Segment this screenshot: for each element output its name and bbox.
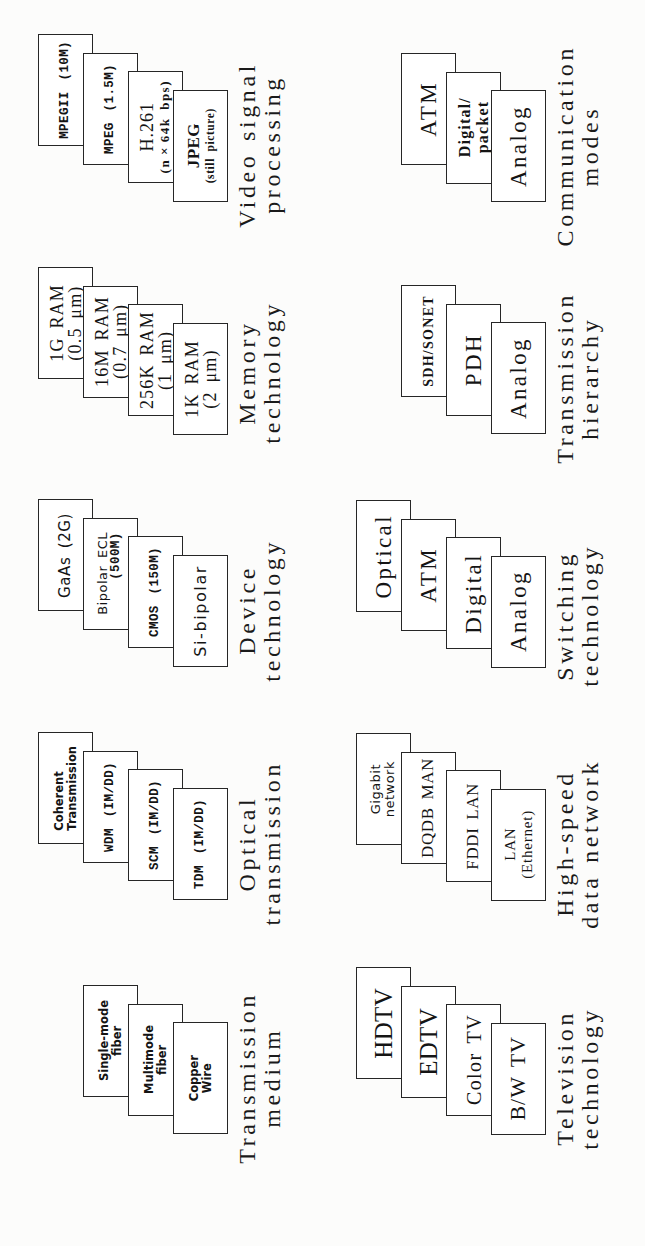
group-title: Transmissionhierarchy [547,267,609,489]
label-line: 16M RAM [93,296,111,387]
title-line: Device [235,539,260,682]
box-label: Gigabitnetwork [369,761,398,817]
title-line: hierarchy [578,292,603,464]
box-label: 1K RAM(2 μm) [183,340,219,418]
title-line: Switching [553,544,578,687]
label-line: (still picture) [204,108,217,183]
title-line: modes [578,45,603,246]
label-line: PDH [461,333,486,386]
label-line: Color TV [463,1014,485,1105]
label-line: (1 μm) [156,311,174,409]
box-label: FDDI LAN [464,783,483,870]
box-label: 16M RAM(0.7 μm) [93,296,129,387]
label-line: MPEG (1.5M) [104,64,118,154]
label-line: Digital [461,553,486,634]
group-switching-technology: Optical ATM Digital Analog Switchingtech… [356,500,616,730]
box-label: GaAs (2G) [57,513,74,598]
title-line: technology [578,544,603,687]
box-label: ATM [416,81,441,137]
group-title: Communicationmodes [547,35,609,257]
title-line: technology [578,1007,603,1150]
box-label: WDM (IM/DD) [104,762,118,852]
label-line: packet [474,97,492,157]
box-label: Multimodefiber [143,1025,168,1094]
box-si-bipolar: Si-bipolar [173,555,228,667]
box-label: CMOS (150M) [149,547,163,637]
box-label: CoherentTransmission [53,746,78,831]
label-line: Analog [506,337,531,419]
box-label: Analog [506,570,531,652]
group-title-text: High-speeddata network [553,759,603,929]
group-memory-technology: 1G RAM(0.5 μm) 16M RAM(0.7 μm) 256K RAM(… [38,267,298,497]
label-line: MPEGII (10M) [59,41,73,139]
label-line: (0.5 μm) [66,284,84,362]
label-line: Digital/ [456,97,474,157]
group-title: Memorytechnology [229,261,291,483]
box-label: SDH/SONET [421,295,436,387]
box-label: TDM (IM/DD) [194,799,208,889]
label-line: B/W TV [506,1036,530,1121]
group-transmission-medium: Single-modefiber Multimodefiber CopperWi… [38,967,298,1197]
label-line: FDDI LAN [464,783,483,870]
label-line: Optical [371,514,396,599]
box-analog: Analog [491,556,546,668]
label-line: SDH/SONET [421,295,436,387]
label-line: network [384,761,398,817]
label-line: TDM (IM/DD) [194,799,208,889]
box-copper-wire: CopperWire [173,1022,228,1134]
group-title-text: Opticaltransmission [235,761,285,926]
label-line: fiber [111,1000,124,1081]
group-title-text: Devicetechnology [235,539,285,682]
box-label: H.261(n×64k bps) [138,80,172,173]
group-title: Video signalprocessing [229,34,291,256]
box-label: Bipolar ECL(500M) [96,532,124,615]
box-label: Color TV [463,1014,485,1105]
box-label: Digital [461,553,486,634]
label-line: H.261 [138,80,158,173]
label-line: JPEG [185,108,204,183]
label-line: HDTV [370,988,398,1059]
group-title-text: Televisiontechnology [553,1007,603,1150]
label-line: EDTV [415,1008,443,1076]
box-label: 1G RAM(0.5 μm) [48,284,84,362]
box-label: Single-modefiber [98,1000,123,1081]
group-optical-transmission: CoherentTransmission WDM (IM/DD) SCM (IM… [38,732,298,962]
group-television-technology: HDTV EDTV Color TV B/W TV Televisiontech… [356,967,616,1197]
label-line: CMOS (150M) [149,547,163,637]
label-line: Single-mode [98,1000,111,1081]
box-label: MPEGII (10M) [59,41,73,139]
group-title: Opticaltransmission [229,732,291,954]
group-title-text: Transmissionmedium [235,992,285,1164]
label-line: ATM [416,81,441,137]
title-line: High-speed [553,759,578,929]
label-line: 256K RAM [138,311,156,409]
label-line: LAN [502,810,519,879]
title-line: Memory [235,301,260,444]
group-title: Transmissionmedium [229,967,291,1189]
title-line: medium [260,992,285,1164]
box-label: PDH [461,333,486,386]
group-title: Devicetechnology [229,499,291,721]
group-title: High-speeddata network [547,733,609,955]
box-label: MPEG (1.5M) [104,64,118,154]
box-bw-tv: B/W TV [491,1023,546,1135]
group-title-text: Transmissionhierarchy [553,292,603,464]
group-title-text: Video signalprocessing [235,62,285,228]
label-line: (0.7 μm) [111,296,129,387]
box-label: B/W TV [506,1036,530,1121]
group-high-speed-data-network: Gigabitnetwork DQDB MAN FDDI LAN LAN(Eth… [356,733,616,963]
group-title-text: Communicationmodes [553,45,603,246]
title-line: transmission [260,761,285,926]
box-1k-ram: 1K RAM(2 μm) [173,323,228,435]
title-line: Transmission [553,292,578,464]
label-line: fiber [156,1025,169,1094]
title-line: Television [553,1007,578,1150]
box-label: CopperWire [188,1055,213,1101]
label-line: (n×64k bps) [158,80,172,173]
box-analog: Analog [491,90,546,202]
label-line: Copper [188,1055,201,1101]
label-line: Transmission [66,746,79,831]
label-line: Coherent [53,746,66,831]
box-label: SCM (IM/DD) [149,780,163,870]
title-line: processing [260,62,285,228]
